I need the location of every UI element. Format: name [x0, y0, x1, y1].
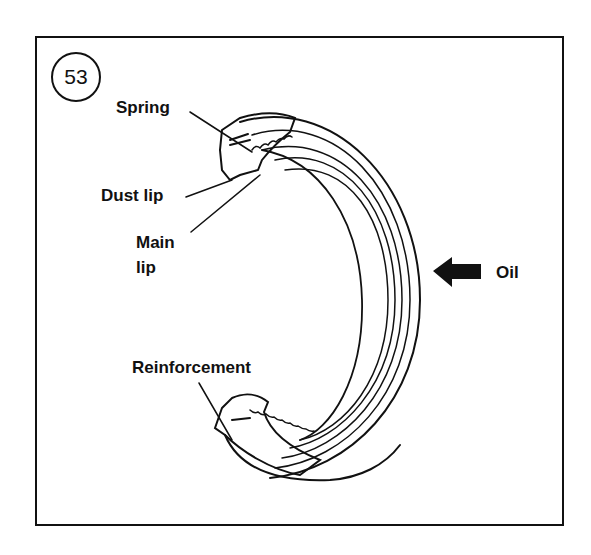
oil-seal-drawing	[0, 0, 591, 555]
oil-direction-arrow-icon	[433, 257, 481, 287]
